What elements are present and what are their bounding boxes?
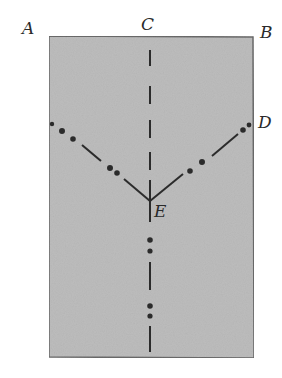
label-e: E bbox=[153, 201, 167, 221]
label-b: B bbox=[259, 22, 273, 42]
fold-diagram: A C B D E bbox=[0, 0, 282, 378]
label-d: D bbox=[257, 112, 272, 132]
paper-sheet bbox=[49, 36, 254, 358]
label-a: A bbox=[20, 18, 34, 38]
label-c: C bbox=[141, 14, 154, 34]
